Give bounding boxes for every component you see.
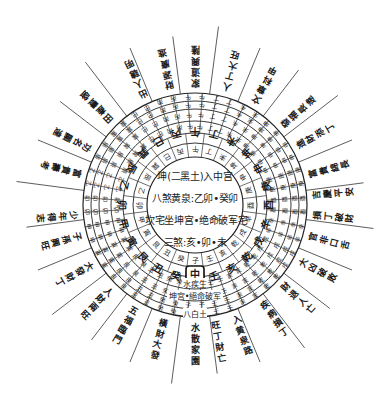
inner-ring-label: 丑 <box>162 248 172 258</box>
inner-ring-label: 巳 <box>162 151 172 161</box>
outer-ring-label: 亥 <box>234 265 243 275</box>
inner-ring-label: 丙 <box>176 146 185 156</box>
outer-ring-label: 戌 <box>271 241 281 250</box>
cell-divider <box>167 262 171 271</box>
spoke-label-char: 道 <box>191 67 200 78</box>
outer-ring-label: 丁 <box>211 103 218 111</box>
outer-ring-label: 亥 <box>231 281 240 291</box>
outer-ring-label: 辰 <box>100 140 110 149</box>
inner-ring-label: 子 <box>192 257 199 265</box>
spoke-label-char: 富 <box>71 168 84 180</box>
spoke-label-char: 安 <box>344 187 356 197</box>
spoke-label-char: 平 <box>334 187 345 197</box>
spoke-label-char: 財 <box>343 214 355 225</box>
spoke-label-char: 官 <box>306 231 319 243</box>
cell-divider <box>151 148 157 156</box>
spoke-divider-line <box>17 182 84 191</box>
outer-ring-label: 坤 <box>272 129 282 139</box>
spoke-label-char: 慶 <box>322 187 334 198</box>
outer-ring-label: 庚 <box>276 172 286 180</box>
outer-ring-label: 寅 <box>115 251 125 260</box>
outer-ring-label: 戌 <box>255 244 265 253</box>
outer-ring-label: 酉 <box>281 196 289 203</box>
outer-ring-label: 丙 <box>162 115 170 125</box>
outer-ring-label: 甲 <box>105 230 115 238</box>
outer-ring-label: 辛 <box>267 217 276 224</box>
spoke-label-char: 貴 <box>317 165 330 177</box>
outer-ring-label: 丑 <box>151 281 159 290</box>
spoke-label-char: 財 <box>214 341 226 354</box>
spoke-label-char: 非 <box>317 234 330 246</box>
spoke-label-char: 散 <box>191 333 201 344</box>
outer-ring-label: 未 <box>251 110 260 120</box>
inner-ring-label: 卯 <box>135 202 144 209</box>
spoke-label-char: 吉 <box>311 189 323 199</box>
outer-ring-label: 午 <box>187 122 194 130</box>
spoke-divider-line <box>172 316 181 383</box>
spoke-label-char: 旺 <box>211 320 222 331</box>
outer-ring-label: 甲 <box>102 219 111 226</box>
outer-ring-label: 申 <box>271 161 281 170</box>
inner-ring-label: 亥 <box>217 247 228 258</box>
outer-ring-label: 辛 <box>276 230 286 238</box>
center-line-4: 三煞:亥•卯•未 <box>145 234 245 249</box>
outer-ring-label: 亥 <box>241 275 250 285</box>
spoke-label-char: 丁 <box>213 331 224 342</box>
outer-ring-label: 巳 <box>151 120 159 129</box>
cell-divider <box>252 177 261 181</box>
spoke-label-char: 旺 <box>230 49 241 61</box>
spoke-label-char: 隆 <box>190 45 200 56</box>
outer-ring-label: 亥 <box>251 290 260 300</box>
cell-divider <box>252 229 261 233</box>
cell-divider <box>219 138 223 147</box>
spoke-label-char: 壽 <box>49 162 62 174</box>
outer-ring-label: 艮 <box>119 282 129 292</box>
spoke-divider-line <box>210 27 219 94</box>
inner-ring-label: 酉 <box>247 202 255 209</box>
cell-divider <box>201 144 203 158</box>
outer-ring-label: 丙 <box>174 112 181 121</box>
outer-ring-label: 庚 <box>265 176 275 184</box>
inner-ring-label: 午 <box>192 145 199 154</box>
outer-ring-label: 辰 <box>125 157 135 166</box>
spoke-label-char: 家 <box>191 344 201 355</box>
outer-ring-label: 巽 <box>108 129 118 139</box>
outer-ring-label: 寅 <box>100 261 110 270</box>
spoke-label-char: 亡 <box>217 351 228 363</box>
outer-ring-label: 丁 <box>207 124 214 132</box>
spoke-label-char: 旺 <box>39 240 51 251</box>
cell-divider <box>203 134 204 144</box>
outer-ring-label: 未 <box>234 135 243 145</box>
outer-ring-label: 丙 <box>166 126 174 136</box>
spoke-label-char: 源 <box>162 69 173 82</box>
spoke-label-char: 損 <box>311 210 323 221</box>
cell-divider <box>124 196 134 197</box>
outer-ring-label: 申 <box>265 150 275 159</box>
cell-divider <box>128 177 137 181</box>
outer-ring-label: 丁 <box>209 113 216 121</box>
spoke-divider-line <box>85 62 126 116</box>
outer-ring-label: 乾 <box>272 272 282 282</box>
outer-ring-label: 艮 <box>108 272 118 282</box>
outer-ring-label: 戌 <box>265 251 275 260</box>
outer-ring-label: 申 <box>255 157 265 166</box>
outer-ring-label: 辛 <box>279 219 288 226</box>
spoke-label-char: 大 <box>152 338 164 351</box>
spoke-label-char: 大 <box>226 59 238 72</box>
outer-ring-label: 酉 <box>269 207 277 214</box>
outer-ring-label: 辛 <box>265 226 275 234</box>
cell-divider <box>124 213 134 214</box>
cell-divider <box>187 253 189 267</box>
outer-ring-label: 子 <box>185 301 191 308</box>
cell-divider <box>219 262 223 271</box>
bottom-ring-label: 坤宫•絕命破军 <box>169 291 222 301</box>
outer-ring-label: 乙 <box>114 186 122 193</box>
outer-ring-label: 午 <box>198 111 205 119</box>
spoke-label-char: 廣 <box>160 58 171 71</box>
outer-ring-label: 子 <box>198 301 204 308</box>
outer-ring-label: 辰 <box>115 150 125 159</box>
cell-divider <box>167 138 171 147</box>
outer-ring-label: 壬 <box>212 307 219 315</box>
spoke-label-char: 綿 <box>328 162 341 174</box>
inner-ring-label: 未 <box>217 151 228 162</box>
